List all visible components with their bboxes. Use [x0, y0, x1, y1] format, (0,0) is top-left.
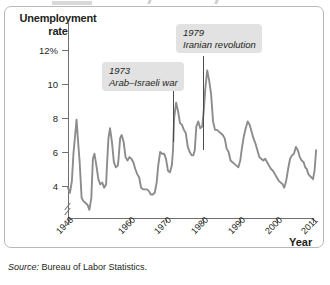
y-tick-label-4: 4 [18, 181, 58, 192]
annotation-1979-event: Iranian revolution [183, 39, 256, 51]
figure-root: Unemployment rate Year 12% 10 8 6 4 1948… [0, 0, 330, 285]
y-axis-line [68, 22, 69, 218]
y-axis-title: Unemployment rate [12, 12, 104, 37]
y-tick-10 [62, 84, 69, 85]
source-label: Source: [8, 262, 39, 272]
y-tick-8 [62, 118, 69, 119]
annotation-1979-year: 1979 [183, 27, 256, 39]
header-mark-left [147, 0, 151, 4]
chart-frame [4, 6, 324, 248]
annotation-leader-1979 [203, 56, 204, 150]
header-smudge [52, 1, 92, 5]
y-tick-6 [62, 152, 69, 153]
annotation-1973-year: 1973 [109, 65, 178, 77]
y-tick-12 [62, 50, 69, 51]
y-tick-label-10: 10 [18, 79, 58, 90]
header-mark-right [214, 0, 218, 4]
source-value: Bureau of Labor Statistics. [39, 262, 147, 272]
annotation-leader-1973 [173, 86, 174, 142]
y-axis-title-line1: Unemployment [12, 12, 104, 25]
x-axis-title: Year [289, 236, 312, 248]
annotation-callout-1973: 1973 Arab–Israeli war [102, 62, 184, 91]
y-tick-4 [62, 186, 69, 187]
y-tick-label-12: 12% [18, 45, 58, 56]
annotation-callout-1979: 1979 Iranian revolution [176, 24, 262, 53]
y-tick-label-6: 6 [18, 147, 58, 158]
annotation-1973-event: Arab–Israeli war [109, 77, 178, 89]
source-note: Source: Bureau of Labor Statistics. [8, 262, 147, 272]
y-tick-label-8: 8 [18, 113, 58, 124]
y-axis-title-line2: rate [12, 25, 104, 38]
